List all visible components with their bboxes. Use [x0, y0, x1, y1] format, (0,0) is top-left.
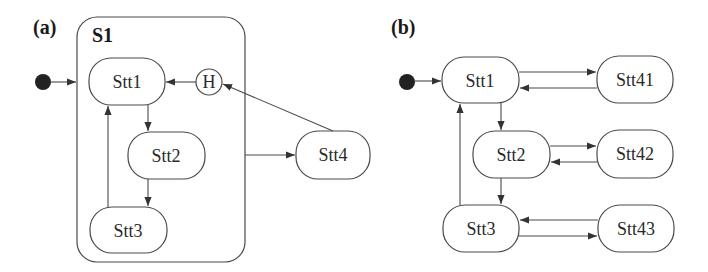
- state-stt2-a-label: Stt2: [151, 146, 180, 166]
- state-stt2-b: Stt2: [473, 131, 550, 178]
- state-stt41: Stt41: [597, 56, 673, 103]
- panel-b: (b) Stt1 Stt41 Stt2 Stt42: [391, 16, 674, 252]
- state-stt2-b-label: Stt2: [496, 145, 525, 165]
- state-stt3-a-label: Stt3: [113, 221, 142, 241]
- state-stt3-b: Stt3: [443, 205, 519, 252]
- initial-state-icon: [35, 74, 51, 90]
- statechart-figure: (a) S1 Stt1 H Stt2 Stt3: [0, 0, 708, 272]
- state-stt42: Stt42: [597, 130, 673, 178]
- state-stt3-a: Stt3: [90, 207, 167, 253]
- history-state-label: H: [203, 72, 216, 92]
- state-stt4: Stt4: [296, 131, 370, 179]
- state-stt42-label: Stt42: [616, 144, 654, 164]
- panel-a-label: (a): [33, 16, 56, 39]
- state-stt3-b-label: Stt3: [466, 219, 495, 239]
- state-stt2-a: Stt2: [128, 132, 205, 179]
- panel-b-label: (b): [391, 16, 415, 39]
- superstate-s1-label: S1: [92, 24, 113, 46]
- state-stt43-label: Stt43: [617, 219, 655, 239]
- state-stt1-b-label: Stt1: [465, 71, 494, 91]
- state-stt1-b: Stt1: [442, 57, 519, 103]
- panel-a: (a) S1 Stt1 H Stt2 Stt3: [33, 16, 370, 262]
- state-stt41-label: Stt41: [616, 70, 654, 90]
- history-state: H: [196, 69, 222, 95]
- state-stt43: Stt43: [598, 205, 674, 252]
- state-stt4-label: Stt4: [318, 145, 347, 165]
- state-stt1-a-label: Stt1: [112, 72, 141, 92]
- state-stt1-a: Stt1: [89, 58, 165, 105]
- initial-state-b-icon: [399, 74, 415, 90]
